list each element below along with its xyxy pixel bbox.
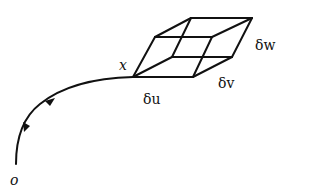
- label-point-x: x: [119, 57, 127, 73]
- edge-uw-uvw: [212, 18, 252, 37]
- path-curve: [16, 77, 133, 164]
- arrow-backward-icon: [23, 122, 30, 132]
- label-delta-v: δv: [218, 75, 234, 91]
- label-origin: o: [10, 172, 18, 188]
- parallelepiped-diagram: o x δu δv δw: [0, 0, 311, 194]
- label-delta-w: δw: [255, 37, 275, 53]
- parallelepiped: [133, 18, 252, 77]
- label-delta-u: δu: [143, 91, 160, 107]
